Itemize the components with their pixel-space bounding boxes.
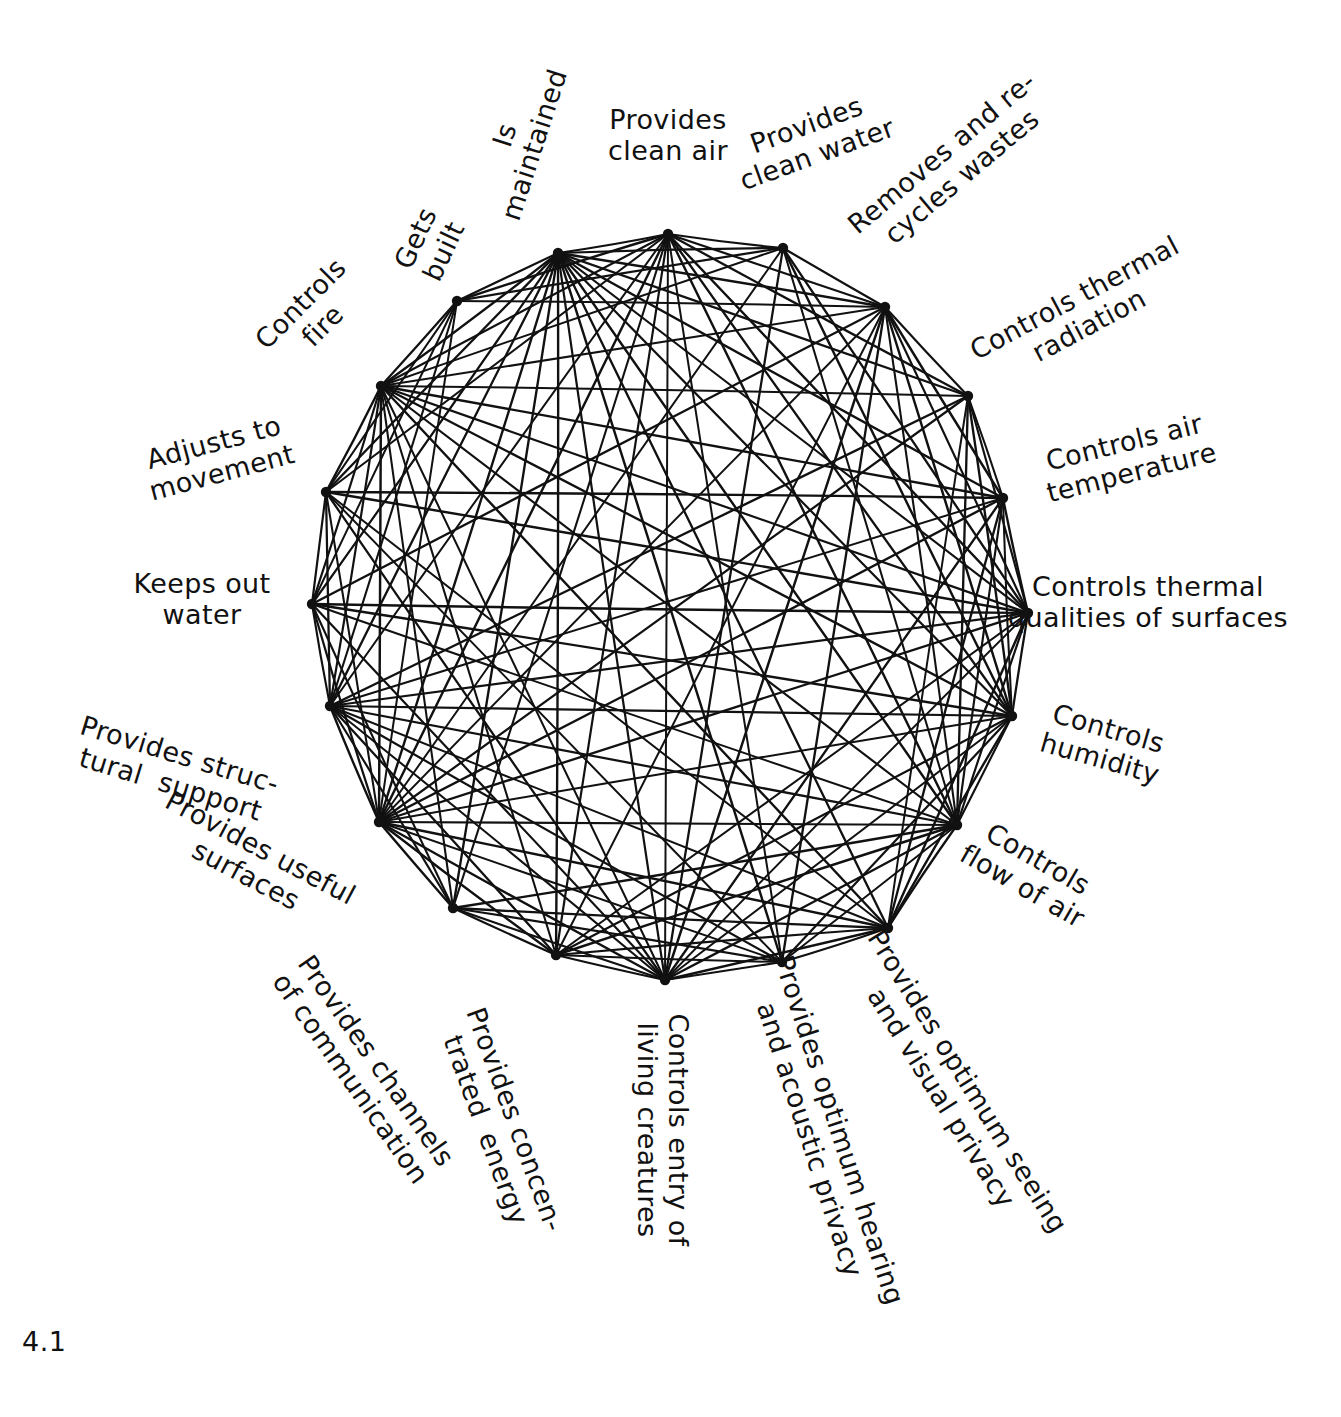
graph-node[interactable] xyxy=(448,903,458,913)
node-label-line: Controls entry of xyxy=(662,1013,693,1246)
node-label: Controls entry ofliving creatures xyxy=(631,1013,693,1246)
graph-edge xyxy=(379,307,885,822)
node-label-line: living creatures xyxy=(631,1013,662,1246)
graph-edge xyxy=(668,234,885,307)
graph-node[interactable] xyxy=(952,820,962,830)
node-label-line: qualities of surfaces xyxy=(1008,603,1288,634)
graph-node[interactable] xyxy=(321,487,331,497)
graph-node[interactable] xyxy=(963,391,973,401)
node-label-line: Keeps out xyxy=(133,569,270,600)
graph-edge xyxy=(379,253,558,822)
graph-edge xyxy=(326,492,330,706)
graph-node[interactable] xyxy=(376,381,386,391)
graph-edge xyxy=(888,825,957,928)
graph-edge xyxy=(665,234,668,980)
node-label: Providesclean air xyxy=(608,105,728,167)
graph-edge xyxy=(668,234,783,248)
graph-edge xyxy=(381,253,558,386)
figure-number: 4.1 xyxy=(22,1326,66,1357)
node-label: Controls thermalqualities of surfaces xyxy=(1008,572,1288,634)
graph-edge xyxy=(381,386,1003,498)
graph-node[interactable] xyxy=(663,229,673,239)
graph-node[interactable] xyxy=(307,599,317,609)
node-label: Keeps outwater xyxy=(133,569,270,631)
node-label-line: Controls thermal xyxy=(1008,572,1288,603)
graph-node[interactable] xyxy=(778,243,788,253)
graph-node[interactable] xyxy=(551,950,561,960)
graph-edge xyxy=(453,234,668,908)
node-label-line: Provides xyxy=(608,105,728,136)
graph-node[interactable] xyxy=(452,296,462,306)
figure-root: Providesclean airProvidesclean waterRemo… xyxy=(0,0,1341,1417)
graph-edge xyxy=(326,492,379,822)
graph-edge xyxy=(457,253,558,301)
graph-edge xyxy=(665,307,885,980)
node-label-line: clean air xyxy=(608,136,728,167)
graph-node[interactable] xyxy=(880,302,890,312)
graph-edge xyxy=(381,386,1012,716)
graph-node[interactable] xyxy=(998,493,1008,503)
graph-edge xyxy=(379,822,556,955)
graph-edge xyxy=(558,253,1028,613)
graph-edge xyxy=(453,908,665,980)
edge-layer xyxy=(312,234,1028,980)
graph-edge xyxy=(381,386,1028,613)
graph-edge xyxy=(326,492,665,980)
graph-node[interactable] xyxy=(1007,711,1017,721)
graph-node[interactable] xyxy=(660,975,670,985)
graph-node[interactable] xyxy=(325,701,335,711)
node-label-line: water xyxy=(133,600,270,631)
graph-node[interactable] xyxy=(374,817,384,827)
graph-node[interactable] xyxy=(553,248,563,258)
graph-edge xyxy=(558,253,957,825)
